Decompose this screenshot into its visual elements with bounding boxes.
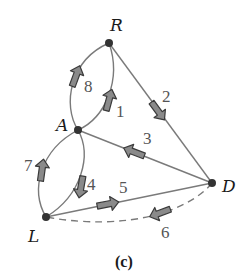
- node-label-D: D: [222, 178, 236, 195]
- figure-caption: (c): [115, 254, 133, 270]
- edge-label-6: 6: [161, 224, 170, 241]
- edge-6: [46, 183, 212, 222]
- edge-4: [46, 130, 84, 217]
- node-label-R: R: [110, 17, 123, 34]
- edge-label-4: 4: [87, 176, 96, 193]
- node-R: [105, 39, 113, 47]
- edge-label-2: 2: [162, 88, 171, 105]
- arrow-5-icon: [96, 195, 120, 213]
- edge-label-7: 7: [24, 157, 33, 174]
- node-A: [74, 126, 82, 134]
- node-label-L: L: [28, 228, 39, 245]
- edge-label-5: 5: [119, 179, 128, 196]
- node-label-A: A: [56, 117, 68, 134]
- edge-label-1: 1: [116, 103, 125, 120]
- arrow-7-icon: [34, 158, 51, 182]
- arrow-6-icon: [147, 203, 172, 224]
- directed-graph-figure: R A D L 8 1 2 3 7 4 5 6 (c): [0, 0, 248, 273]
- edge-label-3: 3: [143, 130, 152, 147]
- edge-5: [46, 183, 212, 217]
- edge-label-8: 8: [84, 78, 93, 95]
- node-D: [208, 179, 216, 187]
- node-L: [42, 213, 50, 221]
